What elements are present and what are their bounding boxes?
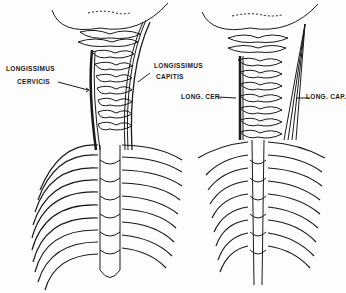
label-longissimus-cervicis-line1: LONGISSIMUS (6, 65, 55, 72)
left-cervical-vertebrae (78, 30, 140, 130)
right-ribs-right (268, 142, 325, 268)
right-panel-drawing (198, 4, 325, 285)
label-longissimus-capitis-line2: CAPITIS (156, 73, 184, 80)
label-long-cap: LONG. CAP. (306, 93, 346, 100)
label-long-cer: LONG. CER. (181, 93, 222, 100)
right-thoracic-spine (250, 140, 266, 285)
left-thoracic-spine (100, 145, 120, 278)
right-cervical-vertebrae (228, 35, 288, 138)
label-longissimus-cervicis-line2: CERVICIS (17, 78, 50, 85)
anatomy-figure: LONGISSIMUS CERVICIS LONGISSIMUS CAPITIS… (0, 0, 346, 293)
label-longissimus-capitis-line1: LONGISSIMUS (154, 62, 203, 69)
spine-illustration (0, 0, 346, 293)
left-ribs-right (122, 145, 182, 268)
left-panel-drawing (32, 3, 182, 290)
left-ribs-left (32, 145, 98, 290)
right-ribs-left (198, 142, 248, 272)
